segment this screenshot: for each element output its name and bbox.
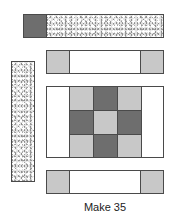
patch-light bbox=[69, 86, 94, 111]
light-square-right bbox=[140, 171, 163, 193]
patch-light bbox=[69, 134, 94, 158]
light-square-left bbox=[47, 51, 70, 73]
sashing-strip-bottom bbox=[46, 170, 164, 194]
print-fabric-strip bbox=[47, 15, 163, 37]
patch-light bbox=[117, 86, 142, 111]
dark-square bbox=[24, 15, 47, 37]
top-strip bbox=[23, 14, 164, 38]
light-square-left bbox=[47, 171, 70, 193]
patch-light bbox=[93, 110, 118, 135]
patch-dark bbox=[93, 86, 118, 111]
patch-dark bbox=[117, 110, 142, 135]
sashing-strip-top bbox=[46, 50, 164, 74]
patch-dark bbox=[93, 134, 118, 158]
patch-light bbox=[117, 134, 142, 158]
nine-patch-block bbox=[46, 86, 164, 158]
vertical-print-strip bbox=[11, 61, 35, 182]
caption: Make 35 bbox=[0, 201, 174, 213]
patch-dark bbox=[69, 110, 94, 135]
light-square-right bbox=[140, 51, 163, 73]
